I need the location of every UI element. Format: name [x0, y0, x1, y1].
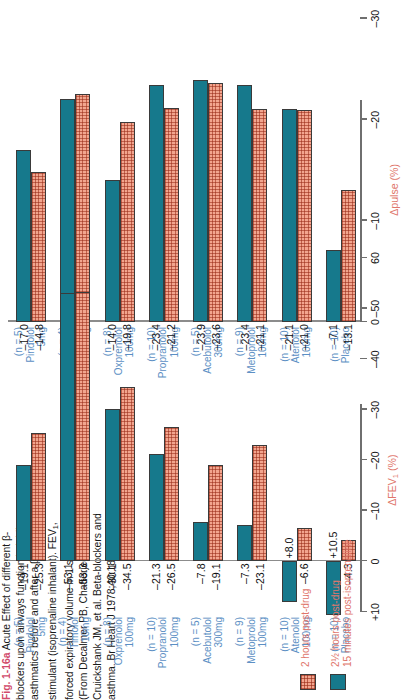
bar-value-label: –21.2 — [165, 324, 177, 351]
bar-fev-6-0 — [75, 292, 90, 562]
bar-group: (n = 10)Propranolol100mg–21.2–23.4 — [141, 100, 185, 322]
bar-value-label: –30.1 — [106, 563, 118, 590]
hatched-swatch — [300, 674, 316, 690]
axis-tick — [360, 459, 367, 460]
bar-group: (n = 9)Metoprolol100mg–21.1–23.4 — [229, 100, 273, 322]
figure-1-16a: Fig. 1-16a Acute Effect of different β-b… — [0, 0, 415, 700]
bar-group: (n = 4)Timolol10mg–53.3–53.1 — [52, 404, 96, 612]
bar-pulse-7-0 — [31, 172, 46, 322]
bar-value-label: –53.3 — [77, 563, 89, 590]
rotated-page: Fig. 1-16a Acute Effect of different β-b… — [0, 0, 415, 700]
group-label-metoprolol: (n = 9)Metoprolol100mg — [234, 617, 268, 664]
axis-tick-label: 0 — [369, 319, 381, 325]
bar-pulse-5-0 — [120, 122, 135, 322]
group-label-oxprenolol: (n = 8)Oxprenolol100mg — [102, 617, 136, 665]
bar-value-label: –21.0 — [298, 324, 310, 351]
axis-tick — [360, 408, 367, 409]
bar-value-label: –7.1 — [327, 324, 339, 345]
bar-group: (n = 5)Pindolol5mg–25.3–19.1 — [8, 404, 52, 612]
bar-group: (n = 10)Atenolol100mg–6.6+8.0 — [274, 404, 318, 612]
bar-value-label: –13.1 — [342, 324, 354, 351]
bar-group: (n = 5)Pindolol5mg–14.8–17.0 — [8, 100, 52, 322]
bar-pulse-0-1 — [326, 250, 341, 322]
group-label-timolol: (n = 4)Timolol10mg — [57, 617, 91, 649]
bar-fev-2-0 — [252, 445, 267, 562]
bar-value-label: –14.0 — [106, 324, 118, 351]
axis-tick-label: –10 — [369, 212, 381, 230]
plot-area-fev1: (n = 10)Placebo–4.3+10.5(n = 10)Atenolol… — [8, 404, 362, 612]
bar-value-label: –23.9 — [195, 324, 207, 351]
axis-tick-label: –20 — [369, 111, 381, 129]
legend-label: 2½ hours post-drug15 minutes post-isopre… — [330, 539, 354, 667]
bar-pulse-2-0 — [252, 109, 267, 322]
axis-tick — [360, 118, 367, 119]
bar-group: (n = 4)Timolol10mg–22.5–22.0 — [52, 100, 96, 322]
group-label-acebutolol: (n = 5)Acebutolol300mg — [190, 617, 224, 664]
bar-value-label: +8.0 — [283, 538, 295, 559]
legend-label: 2 hours post-drug — [300, 589, 312, 667]
bar-fev-4-0 — [164, 427, 179, 561]
bar-value-label: –17.0 — [18, 324, 30, 351]
axis-title-pulse: Δpulse (%) — [388, 164, 400, 216]
bar-pulse-3-0 — [208, 83, 223, 322]
axis-tick — [360, 307, 367, 308]
bar-value-label: –53.1 — [62, 563, 74, 590]
bar-pulse-4-0 — [164, 108, 179, 322]
group-label-propranolol: (n = 10)Propranolol100mg — [146, 617, 180, 668]
bar-fev-2-1 — [237, 525, 252, 562]
bar-fev-7-1 — [16, 465, 31, 562]
bar-value-label: –25.3 — [33, 563, 45, 590]
bar-pulse-7-1 — [16, 150, 31, 322]
bar-value-label: –23.6 — [210, 324, 222, 351]
bar-fev-1-0 — [297, 528, 312, 561]
axis-tick — [360, 358, 367, 359]
bar-pulse-6-0 — [75, 94, 90, 322]
axis-tick-label: +10 — [369, 603, 381, 621]
axis-tick-label: –10 — [369, 502, 381, 520]
bar-pulse-1-0 — [297, 110, 312, 322]
bar-pulse-0-0 — [341, 190, 356, 322]
bar-value-label: –23.4 — [239, 324, 251, 351]
axis-tick — [360, 611, 367, 612]
value-axis-pulse: 0–10–20–30 — [360, 100, 362, 322]
axis-tick — [360, 219, 367, 220]
bar-value-label: –19.8 — [121, 324, 133, 351]
bar-pulse-6-1 — [60, 100, 75, 323]
bar-value-label: –26.5 — [165, 563, 177, 590]
axis-tick — [360, 560, 367, 561]
plot-area-pulse: (n = 10)Placebo–13.1–7.1(n = 10)Atenolol… — [8, 100, 362, 322]
bar-group: (n = 8)Oxprenolol100mg–19.8–14.0 — [97, 100, 141, 322]
axis-tick-label: –20 — [369, 451, 381, 469]
bar-value-label: –7.3 — [239, 563, 251, 584]
bar-fev-3-1 — [193, 522, 208, 561]
axis-tick-label: 0 — [369, 558, 381, 564]
bar-value-label: –21.1 — [283, 324, 295, 351]
bar-fev-5-1 — [105, 409, 120, 561]
value-axis-fev1: +100–10–20–30–40–5060 — [360, 404, 362, 612]
bar-value-label: –23.4 — [150, 324, 162, 351]
bar-fev-5-0 — [120, 387, 135, 561]
bar-group: (n = 5)Acebutolol300mg–19.1–7.8 — [185, 404, 229, 612]
bar-pulse-1-1 — [282, 109, 297, 322]
bar-value-label: –34.5 — [121, 563, 133, 590]
axis-tick-label: 60 — [369, 252, 381, 264]
bar-pulse-2-1 — [237, 85, 252, 322]
bar-group: (n = 9)Metoprolol100mg–23.1–7.3 — [229, 404, 273, 612]
axis-tick — [360, 509, 367, 510]
bar-group: (n = 8)Oxprenolol100mg–34.5–30.1 — [97, 404, 141, 612]
bar-value-label: –19.1 — [210, 563, 222, 590]
bar-fev-7-0 — [31, 434, 46, 562]
axis-tick-label: –30 — [369, 401, 381, 419]
axis-tick-label: –50 — [369, 300, 381, 318]
group-label-pindolol: (n = 5)Pindolol5mg — [13, 617, 47, 653]
bar-pulse-5-1 — [105, 180, 120, 322]
axis-title-fev1: ΔFEV1 (%) — [386, 454, 400, 505]
solid-swatch — [330, 674, 346, 690]
bar-value-label: –6.6 — [298, 563, 310, 584]
bar-value-label: –23.1 — [254, 563, 266, 590]
bar-value-label: –7.8 — [195, 563, 207, 584]
bar-fev-3-0 — [208, 465, 223, 562]
axis-tick-label: –30 — [369, 10, 381, 28]
bar-pulse-3-1 — [193, 80, 208, 322]
bar-group: (n = 10)Atenolol100mg–21.0–21.1 — [274, 100, 318, 322]
